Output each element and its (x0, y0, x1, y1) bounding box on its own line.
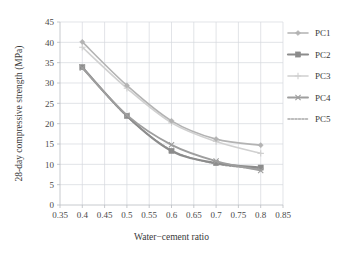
chart-container: 0.350.40.450.50.550.60.650.70.750.80.85 … (0, 0, 360, 255)
x-tick-label: 0.8 (255, 210, 267, 220)
y-tick-label: 25 (45, 99, 55, 109)
data-point-marker (169, 148, 174, 153)
y-tick-label: 35 (45, 58, 55, 68)
x-tick-label: 0.5 (121, 210, 133, 220)
y-tick-label: 0 (50, 200, 55, 210)
x-tick-label: 0.45 (97, 210, 113, 220)
x-tick-label: 0.6 (166, 210, 178, 220)
x-tick-label: 0.55 (141, 210, 157, 220)
x-tick-label: 0.85 (275, 210, 291, 220)
y-tick-label: 5 (50, 180, 55, 190)
x-axis-title: Water−cement ratio (134, 232, 209, 242)
x-tick-label: 0.75 (231, 210, 247, 220)
legend-label: PC5 (315, 114, 331, 124)
legend-label: PC1 (315, 28, 331, 38)
y-tick-label: 40 (45, 38, 55, 48)
legend-label: PC2 (315, 50, 331, 60)
y-tick-label: 10 (45, 160, 55, 170)
x-tick-label: 0.35 (52, 210, 68, 220)
x-tick-label: 0.7 (210, 210, 222, 220)
x-tick-label: 0.65 (186, 210, 202, 220)
line-chart: 0.350.40.450.50.550.60.650.70.750.80.85 … (0, 0, 360, 255)
legend-label: PC3 (315, 71, 331, 81)
y-axis-title: 28-day compressive strength (MPa) (14, 46, 25, 182)
x-tick-label: 0.4 (77, 210, 89, 220)
y-tick-label: 20 (45, 119, 55, 129)
data-point-marker (295, 52, 300, 57)
y-tick-label: 15 (45, 139, 55, 149)
legend-label: PC4 (315, 93, 331, 103)
y-tick-label: 30 (45, 78, 55, 88)
y-tick-label: 45 (45, 17, 55, 27)
